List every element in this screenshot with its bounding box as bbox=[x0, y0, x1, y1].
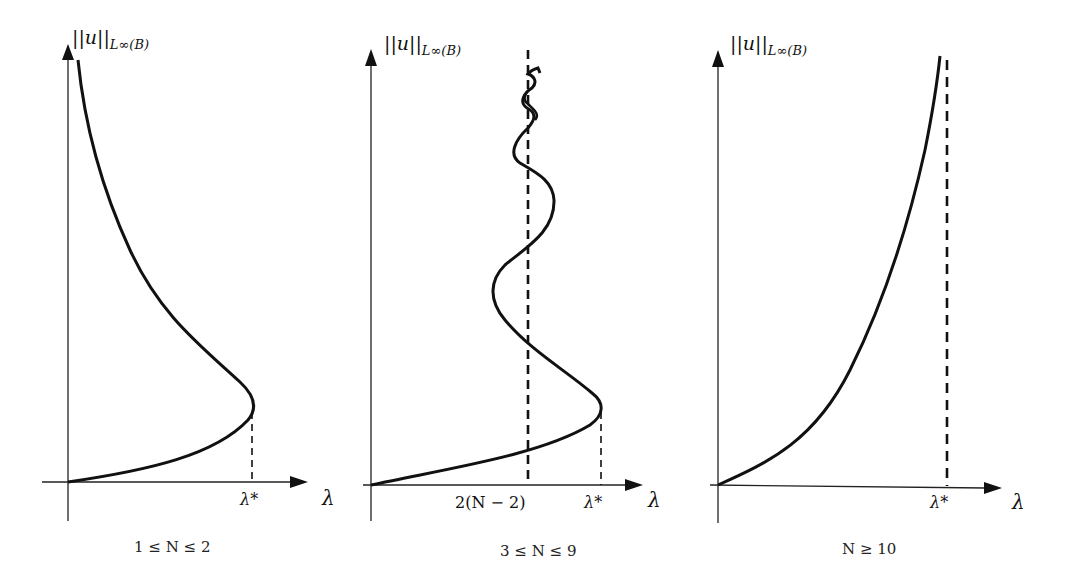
y-axis-label: ||u||L∞(B) bbox=[384, 34, 461, 57]
bifurcation-curve bbox=[68, 60, 254, 482]
x-axis-arrow-icon bbox=[984, 482, 1002, 494]
x-axis-label: λ bbox=[1012, 492, 1025, 512]
lambda-star-tick: λ* bbox=[240, 492, 258, 508]
x-axis-arrow-icon bbox=[290, 476, 308, 488]
panel-caption: 3 ≤ N ≤ 9 bbox=[500, 544, 576, 559]
lambda-star-tick: λ* bbox=[584, 495, 602, 511]
y-axis-arrow-icon bbox=[365, 49, 377, 66]
y-label-subscript: L∞(B) bbox=[110, 37, 149, 52]
y-label-main: ||u|| bbox=[72, 26, 110, 48]
x-axis-arrow-icon bbox=[625, 479, 643, 491]
panel-caption: N ≥ 10 bbox=[842, 542, 896, 557]
y-axis-label: ||u||L∞(B) bbox=[72, 28, 149, 51]
y-label-subscript: L∞(B) bbox=[422, 43, 461, 58]
y-label-main: ||u|| bbox=[730, 32, 768, 54]
lambda-star-tick: λ* bbox=[930, 495, 948, 511]
critical-tick: 2(N − 2) bbox=[455, 495, 525, 511]
panel-2 bbox=[363, 49, 643, 521]
x-axis bbox=[710, 485, 986, 488]
bifurcation-curve bbox=[718, 56, 940, 485]
y-label-main: ||u|| bbox=[384, 32, 422, 54]
panel-3 bbox=[710, 50, 1002, 523]
x-axis-label: λ bbox=[322, 488, 335, 508]
bifurcation-curve bbox=[371, 68, 601, 485]
panel-1 bbox=[42, 44, 308, 521]
y-label-subscript: L∞(B) bbox=[768, 43, 807, 58]
y-axis-label: ||u||L∞(B) bbox=[730, 34, 807, 57]
x-axis-label: λ bbox=[648, 490, 661, 510]
bifurcation-diagrams bbox=[0, 0, 1068, 588]
y-axis-arrow-icon bbox=[712, 50, 724, 67]
panel-caption: 1 ≤ N ≤ 2 bbox=[134, 540, 210, 555]
